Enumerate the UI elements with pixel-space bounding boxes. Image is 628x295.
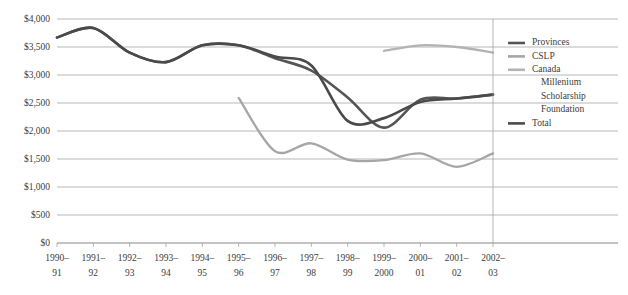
x-axis-tick-label: 2000– — [408, 253, 432, 263]
x-axis-labels-group: 1990–911991–921992–931993–941994–951995–… — [45, 253, 505, 278]
x-axis-tick-label: 1990– — [45, 253, 69, 263]
y-axis-tick-label: $0 — [41, 238, 51, 248]
series-group — [57, 28, 493, 167]
chart-container: $0$500$1,000$1,500$2,000$2,500$3,000$3,5… — [0, 0, 628, 295]
legend-label[interactable]: CSLP — [532, 51, 555, 61]
x-axis-tick-label-line2: 91 — [52, 268, 62, 278]
x-axis-tick-label: 2001– — [445, 253, 469, 263]
x-axis-tick-label-line2: 2000 — [375, 268, 394, 278]
legend-label[interactable]: Foundation — [541, 104, 585, 114]
x-axis-tick-label-line2: 93 — [125, 268, 135, 278]
x-axis-tick-label: 1991– — [81, 253, 105, 263]
x-axis-tick-label-line2: 99 — [343, 268, 353, 278]
x-axis-tick-label-line2: 02 — [452, 268, 462, 278]
x-axis-tick-label-line2: 95 — [198, 268, 208, 278]
y-axis-labels-group: $0$500$1,000$1,500$2,000$2,500$3,000$3,5… — [24, 14, 50, 248]
legend-label[interactable]: Canada — [532, 64, 561, 74]
x-axis-tick-label-line2: 98 — [307, 268, 317, 278]
legend-label[interactable]: Millenium — [541, 77, 582, 87]
x-axis-tick-label: 1993– — [154, 253, 178, 263]
x-axis-tick-label-line2: 96 — [234, 268, 244, 278]
x-axis-tick-label-line2: 94 — [161, 268, 171, 278]
x-axis-tick-label: 1999– — [372, 253, 396, 263]
legend-label[interactable]: Scholarship — [541, 91, 586, 101]
x-axis-tick-label: 1995– — [227, 253, 251, 263]
x-axis-tick-label: 1997– — [299, 253, 323, 263]
legend-label[interactable]: Total — [532, 118, 552, 128]
x-axis-tick-label: 1994– — [190, 253, 214, 263]
series-line — [239, 98, 493, 167]
x-axis-tick-label-line2: 01 — [416, 268, 426, 278]
x-axis-tick-label: 1998– — [336, 253, 360, 263]
x-axis-tick-label: 2002– — [481, 253, 505, 263]
x-axis-tick-label-line2: 03 — [488, 268, 498, 278]
y-axis-tick-label: $2,500 — [24, 98, 50, 108]
x-axis-tick-label: 1992– — [118, 253, 142, 263]
x-axis-tick-label-line2: 97 — [270, 268, 280, 278]
chart-legend: ProvincesCSLPCanadaMilleniumScholarshipF… — [508, 37, 586, 127]
x-axis-tickmarks-group — [57, 243, 493, 247]
y-axis-tick-label: $1,500 — [24, 154, 50, 164]
legend-label[interactable]: Provinces — [532, 37, 570, 47]
y-axis-tick-label: $4,000 — [24, 14, 50, 24]
y-axis-tick-label: $1,000 — [24, 182, 50, 192]
y-axis-tick-label: $3,000 — [24, 70, 50, 80]
y-axis-tick-label: $3,500 — [24, 42, 50, 52]
series-line — [57, 28, 493, 128]
x-axis-tick-label-line2: 92 — [89, 268, 99, 278]
x-axis-tick-label: 1996– — [263, 253, 287, 263]
y-axis-tick-label: $500 — [31, 210, 50, 220]
line-chart: $0$500$1,000$1,500$2,000$2,500$3,000$3,5… — [0, 0, 628, 295]
y-axis-tick-label: $2,000 — [24, 126, 50, 136]
series-line — [384, 45, 493, 52]
series-line — [57, 28, 493, 125]
